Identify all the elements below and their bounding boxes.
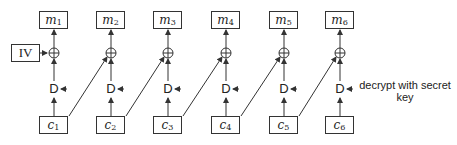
ciphertext-box-5: c5 — [269, 116, 298, 134]
ciphertext-label: c — [162, 118, 169, 132]
ciphertext-label: c — [220, 118, 227, 132]
ciphertext-subscript: 6 — [340, 123, 345, 132]
iv-label: IV — [19, 45, 33, 61]
ciphertext-box-6: c6 — [325, 116, 354, 134]
ciphertext-box-3: c3 — [153, 116, 182, 134]
plaintext-label: m — [275, 13, 286, 27]
ciphertext-subscript: 4 — [226, 123, 231, 132]
plaintext-label: m — [45, 13, 56, 27]
plaintext-subscript: 5 — [287, 18, 292, 27]
decrypt-function-3: D — [162, 82, 174, 96]
ciphertext-subscript: 5 — [284, 123, 289, 132]
cbc-decryption-diagram: IV m1c1Dm2c2Dm3c3Dm4c4Dm5c5Dm6c6D decryp… — [0, 0, 457, 145]
plaintext-subscript: 2 — [114, 18, 119, 27]
plaintext-box-6: m6 — [325, 11, 354, 29]
ciphertext-label: c — [48, 118, 55, 132]
plaintext-box-3: m3 — [153, 11, 182, 29]
plaintext-box-2: m2 — [96, 11, 125, 29]
ciphertext-subscript: 2 — [111, 123, 116, 132]
ciphertext-label: c — [278, 118, 285, 132]
plaintext-box-5: m5 — [269, 11, 298, 29]
ciphertext-label: c — [334, 118, 341, 132]
decrypt-function-2: D — [105, 82, 117, 96]
plaintext-subscript: 1 — [57, 18, 62, 27]
ciphertext-label: c — [105, 118, 112, 132]
ciphertext-box-1: c1 — [39, 116, 68, 134]
plaintext-subscript: 6 — [343, 18, 348, 27]
decrypt-annotation: decrypt with secret key — [356, 79, 454, 103]
ciphertext-subscript: 1 — [54, 123, 59, 132]
plaintext-label: m — [102, 13, 113, 27]
decrypt-function-1: D — [48, 82, 60, 96]
iv-box: IV — [11, 44, 40, 62]
plaintext-label: m — [159, 13, 170, 27]
plaintext-subscript: 4 — [229, 18, 234, 27]
plaintext-subscript: 3 — [171, 18, 176, 27]
plaintext-label: m — [217, 13, 228, 27]
plaintext-label: m — [331, 13, 342, 27]
decrypt-function-5: D — [278, 82, 290, 96]
decrypt-function-4: D — [220, 82, 232, 96]
plaintext-box-4: m4 — [211, 11, 240, 29]
ciphertext-box-4: c4 — [211, 116, 240, 134]
ciphertext-subscript: 3 — [168, 123, 173, 132]
plaintext-box-1: m1 — [39, 11, 68, 29]
ciphertext-box-2: c2 — [96, 116, 125, 134]
decrypt-function-6: D — [334, 82, 346, 96]
